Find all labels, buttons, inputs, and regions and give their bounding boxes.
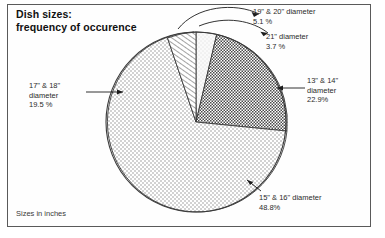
slice-label-17-18: 17" & 18" diameter 19.5 % xyxy=(29,81,60,110)
chart-title-line2: frequency of occurence xyxy=(16,21,196,34)
slice-label-15-16: 15" & 16" diameter 48.8% xyxy=(259,193,321,212)
leader-17-18 xyxy=(86,89,123,94)
slice-label-15-16-pct: 48.8% xyxy=(259,203,321,213)
slice-label-21: 21" diameter 3.7 % xyxy=(266,32,308,51)
slice-label-13-14-name: 13" & 14" xyxy=(307,76,338,85)
slice-label-13-14-pct: 22.9% xyxy=(307,95,338,105)
slice-label-19-20: 19" & 20" diameter 5.1 % xyxy=(253,7,315,26)
slice-label-15-16-name: 15" & 16" diameter xyxy=(259,193,321,202)
slice-label-13-14: 13" & 14" diameter 22.9% xyxy=(307,76,338,105)
slice-label-19-20-name: 19" & 20" diameter xyxy=(253,7,315,16)
slice-label-19-20-pct: 5.1 % xyxy=(253,17,315,27)
leader-13-14 xyxy=(277,85,305,90)
pie-chart-graphic xyxy=(0,0,385,238)
pie-chart-figure: Dish sizes: frequency of occurence 17" &… xyxy=(0,0,385,238)
chart-title-line1: Dish sizes: xyxy=(16,8,72,20)
slice-label-13-14-line2: diameter xyxy=(307,86,338,96)
figure-footnote: Sizes in inches xyxy=(16,209,66,218)
slice-label-21-pct: 3.7 % xyxy=(266,42,308,52)
slice-label-17-18-pct: 19.5 % xyxy=(29,100,60,110)
slice-label-17-18-line2: diameter xyxy=(29,91,60,101)
chart-title: Dish sizes: frequency of occurence xyxy=(16,8,196,34)
slice-label-21-name: 21" diameter xyxy=(266,32,308,41)
slice-label-17-18-name: 17" & 18" xyxy=(29,81,60,90)
